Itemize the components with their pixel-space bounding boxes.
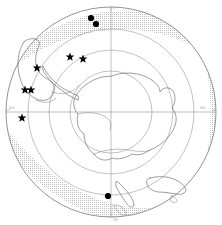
star-marker	[18, 113, 27, 121]
circle-marker	[105, 193, 111, 199]
ronne-ice-shelf-edge	[78, 113, 111, 130]
tick-label-west: 60 S	[9, 106, 15, 110]
map-figure: 60 S 60 E 0 180	[0, 0, 222, 225]
tick-label-south: 180	[113, 218, 118, 222]
tick-label-north: 0	[113, 6, 115, 10]
circle-marker-layer	[88, 15, 111, 199]
ice-band-east	[204, 58, 219, 160]
australia-coastline	[147, 177, 186, 195]
circle-marker	[88, 15, 94, 21]
circle-marker	[93, 21, 99, 27]
star-marker	[66, 52, 75, 60]
ice-band-group	[2, 10, 219, 224]
polar-map-canvas: 60 S 60 E 0 180	[0, 0, 222, 225]
coastlines-group	[18, 39, 186, 216]
star-marker	[27, 85, 36, 93]
star-marker	[79, 54, 88, 62]
ice-band-north	[18, 10, 214, 62]
tick-label-east: 60 E	[200, 106, 206, 110]
star-marker	[33, 63, 42, 71]
tasmania-coastline	[170, 196, 177, 203]
antarctic-peninsula-coastline	[43, 66, 78, 100]
